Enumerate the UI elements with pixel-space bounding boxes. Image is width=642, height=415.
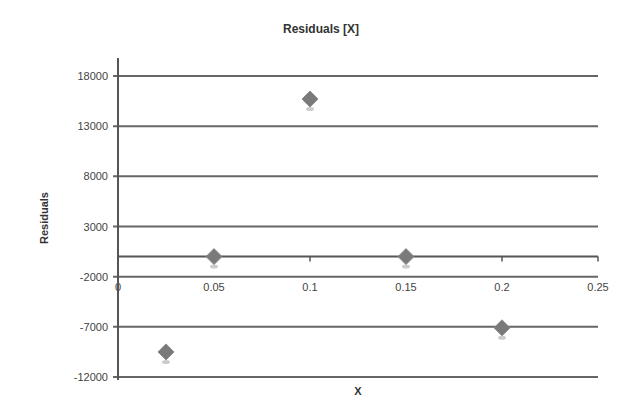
marker-shadow [162,360,170,364]
diamond-marker [494,320,510,336]
x-axis-label: X [354,385,362,397]
y-axis-ticks: 180001300080003000-2000-7000-12000 [74,70,108,383]
x-tick-label: 0.1 [302,281,317,293]
x-tick-label: 0.2 [494,281,509,293]
marker-shadow [210,265,218,269]
y-axis-label: Residuals [38,192,50,244]
x-tick-label: 0.25 [587,281,608,293]
y-tick-label: -2000 [80,271,108,283]
marker-shadow [402,265,410,269]
gridlines [113,76,598,377]
y-tick-label: 13000 [77,120,108,132]
marker-shadow [306,107,314,111]
y-tick-label: 3000 [84,221,108,233]
y-tick-label: 8000 [84,170,108,182]
diamond-marker [398,249,414,265]
diamond-marker [302,91,318,107]
diamond-marker [206,249,222,265]
y-tick-label: 18000 [77,70,108,82]
x-axis-ticks: 00.050.10.150.20.25 [115,257,609,293]
chart-title: Residuals [X] [283,22,359,36]
diamond-marker [158,344,174,360]
y-tick-label: -12000 [74,371,108,383]
x-tick-label: 0.15 [395,281,416,293]
y-tick-label: -7000 [80,321,108,333]
x-tick-label: 0.05 [203,281,224,293]
residuals-chart: Residuals [X] 180001300080003000-2000-70… [0,0,642,415]
marker-shadow [498,336,506,340]
